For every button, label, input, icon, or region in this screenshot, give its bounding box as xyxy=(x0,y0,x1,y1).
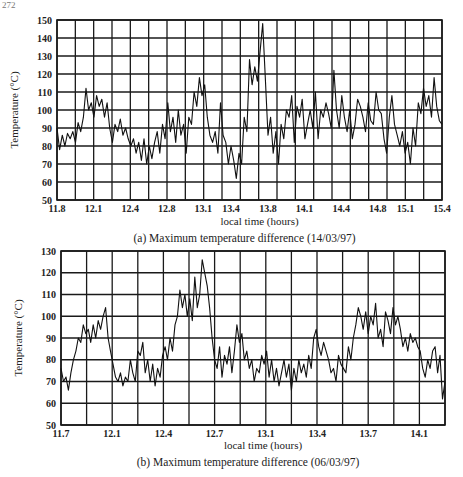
x-tick-label: 12.1 xyxy=(85,203,103,214)
y-tick-label: 60 xyxy=(46,398,56,409)
y-tick-label: 100 xyxy=(37,105,52,116)
y-tick-label: 130 xyxy=(41,246,56,257)
x-tick-label: 14.4 xyxy=(332,203,350,214)
y-tick-label: 130 xyxy=(37,51,52,62)
x-tick-label: 12.1 xyxy=(103,428,121,439)
x-axis-label: local time (hours) xyxy=(224,439,303,452)
x-tick-label: 13.1 xyxy=(195,203,213,214)
y-tick-label: 110 xyxy=(38,87,52,98)
x-tick-label: 12.8 xyxy=(158,203,176,214)
x-tick-label: 12.4 xyxy=(121,203,139,214)
x-tick-label: 14.8 xyxy=(369,203,387,214)
chart-b: 506070809010011012013011.712.112.412.713… xyxy=(12,246,445,470)
chart-a: 506070809010011012013014015011.812.112.4… xyxy=(8,15,451,246)
y-tick-label: 70 xyxy=(42,159,52,170)
figure-caption: (a) Maximum temperature difference (14/0… xyxy=(133,232,355,245)
x-tick-label: 15.4 xyxy=(433,203,451,214)
y-tick-label: 100 xyxy=(41,311,56,322)
y-tick-label: 120 xyxy=(41,267,56,278)
figure-caption: (b) Maximum temperature difference (06/0… xyxy=(137,456,360,469)
x-axis-label: local time (hours) xyxy=(220,215,299,228)
y-tick-label: 150 xyxy=(37,15,52,26)
x-tick-label: 13.8 xyxy=(259,203,277,214)
y-axis-label: Temperature (°C) xyxy=(8,71,21,149)
y-tick-label: 110 xyxy=(42,289,56,300)
y-tick-label: 90 xyxy=(46,333,56,344)
x-tick-label: 13.1 xyxy=(257,428,275,439)
y-tick-label: 90 xyxy=(42,123,52,134)
y-tick-label: 80 xyxy=(46,354,56,365)
x-tick-label: 13.4 xyxy=(308,428,326,439)
y-tick-label: 60 xyxy=(42,177,52,188)
y-tick-label: 70 xyxy=(46,376,56,387)
x-tick-label: 14.1 xyxy=(296,203,314,214)
x-tick-label: 11.8 xyxy=(49,203,66,214)
x-tick-label: 12.4 xyxy=(155,428,173,439)
x-tick-label: 13.4 xyxy=(222,203,240,214)
x-tick-label: 11.7 xyxy=(53,428,70,439)
y-tick-label: 80 xyxy=(42,141,52,152)
y-tick-label: 140 xyxy=(37,33,52,44)
y-tick-label: 120 xyxy=(37,69,52,80)
y-axis-label: Temperature (°C) xyxy=(12,299,25,377)
data-line xyxy=(61,260,445,399)
data-line xyxy=(57,24,442,179)
x-tick-label: 12.7 xyxy=(206,428,224,439)
x-tick-label: 13.7 xyxy=(359,428,377,439)
x-tick-label: 14.1 xyxy=(411,428,429,439)
x-tick-label: 15.1 xyxy=(397,203,415,214)
figure: 506070809010011012013014015011.812.112.4… xyxy=(0,0,463,477)
